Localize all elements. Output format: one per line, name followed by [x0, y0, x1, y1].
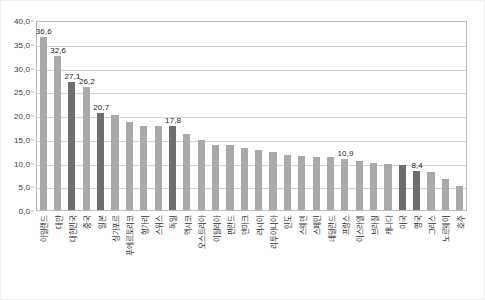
x-tick-label-slot: 대만: [50, 213, 64, 299]
bar-chart: 40,035,030,025,020,015,010,05,00,0 36,63…: [0, 0, 485, 300]
y-tick-label: 0,0: [19, 207, 30, 216]
x-tick-label: 일본: [95, 215, 106, 229]
bar[interactable]: [399, 165, 406, 211]
x-tick-label-slot: 싱가포르: [108, 213, 122, 299]
bar[interactable]: [97, 113, 104, 211]
bar-slot[interactable]: 32,6: [54, 21, 61, 211]
y-tick-label: 30,0: [14, 64, 30, 73]
bar-slot[interactable]: [427, 21, 434, 211]
y-tick-label: 35,0: [14, 40, 30, 49]
bar-slot[interactable]: 26,2: [83, 21, 90, 211]
x-tick-label: 아일랜드: [38, 215, 49, 242]
x-tick-label-slot: 프랑스: [338, 213, 352, 299]
bar-slot[interactable]: 17,8: [169, 21, 176, 211]
bar[interactable]: [155, 126, 162, 211]
bar[interactable]: [341, 159, 348, 211]
x-tick-label: 싱가포르: [110, 215, 121, 242]
bar[interactable]: [169, 126, 176, 211]
x-tick-label-slot: 네덜란드: [323, 213, 337, 299]
bar-slot[interactable]: [313, 21, 320, 211]
bar[interactable]: [442, 179, 449, 211]
y-tick-mark: [31, 163, 34, 164]
bar-slot[interactable]: [442, 21, 449, 211]
bar-slot[interactable]: 27,1: [68, 21, 75, 211]
x-tick-label-slot: 영국: [410, 213, 424, 299]
y-tick-mark: [31, 116, 34, 117]
y-tick-mark: [31, 44, 34, 45]
bar[interactable]: [456, 186, 463, 211]
x-tick-label-slot: 헝가리: [137, 213, 151, 299]
bar-slot[interactable]: [155, 21, 162, 211]
bar-slot[interactable]: [298, 21, 305, 211]
bar[interactable]: [284, 155, 291, 211]
bar-slot[interactable]: [327, 21, 334, 211]
bar[interactable]: [298, 156, 305, 211]
x-axis-labels: 아일랜드대만대한민국중국일본싱가포르푸에르토리코헝가리스위스독일멕시코오스트리아…: [36, 213, 467, 299]
y-tick-mark: [31, 92, 34, 93]
x-tick-label: 스웨덴: [296, 215, 307, 235]
x-tick-label: 이스라엘: [354, 215, 365, 242]
x-tick-label-slot: 러시아: [252, 213, 266, 299]
bar[interactable]: [226, 145, 233, 211]
x-tick-label-slot: 이스라엘: [352, 213, 366, 299]
x-tick-label-slot: 호주: [453, 213, 467, 299]
bar[interactable]: [269, 152, 276, 211]
bar[interactable]: [198, 140, 205, 211]
bar[interactable]: [384, 164, 391, 211]
bar[interactable]: [68, 82, 75, 211]
x-tick-label: 대한민국: [66, 215, 77, 242]
bar-slot[interactable]: [198, 21, 205, 211]
bar[interactable]: [40, 37, 47, 211]
bar[interactable]: [241, 148, 248, 211]
bar[interactable]: [255, 150, 262, 211]
x-tick-label-slot: 중국: [79, 213, 93, 299]
x-tick-label: 핀란드: [224, 215, 235, 235]
bar[interactable]: [356, 161, 363, 211]
bar-slot[interactable]: [356, 21, 363, 211]
bar-slot[interactable]: 20,7: [97, 21, 104, 211]
bar[interactable]: [427, 172, 434, 211]
bar-slot[interactable]: [212, 21, 219, 211]
bar-slot[interactable]: 8,4: [413, 21, 420, 211]
bar[interactable]: [370, 163, 377, 211]
bar-slot[interactable]: [284, 21, 291, 211]
bar-slot[interactable]: [226, 21, 233, 211]
x-tick-label-slot: 멕시코: [180, 213, 194, 299]
bar[interactable]: [111, 115, 118, 211]
bar-slot[interactable]: [126, 21, 133, 211]
bar-slot[interactable]: [241, 21, 248, 211]
bar-slot[interactable]: 36,6: [40, 21, 47, 211]
bar-slot[interactable]: [269, 21, 276, 211]
x-tick-label: 오스트리아: [196, 215, 207, 249]
bar[interactable]: [413, 171, 420, 211]
bar[interactable]: [54, 56, 61, 211]
bar[interactable]: [183, 134, 190, 211]
y-tick-label: 5,0: [19, 183, 30, 192]
y-tick-label: 40,0: [14, 17, 30, 26]
bar[interactable]: [126, 122, 133, 211]
bar-slot[interactable]: [399, 21, 406, 211]
bar-slot[interactable]: [370, 21, 377, 211]
bar[interactable]: [327, 157, 334, 211]
bar[interactable]: [83, 87, 90, 211]
bar[interactable]: [313, 157, 320, 211]
x-tick-label-slot: 오스트리아: [194, 213, 208, 299]
bar[interactable]: [140, 126, 147, 211]
x-tick-label-slot: 리투아니아: [266, 213, 280, 299]
bar-slot[interactable]: [456, 21, 463, 211]
y-tick-label: 10,0: [14, 159, 30, 168]
bar-slot[interactable]: [140, 21, 147, 211]
x-tick-label: 덴마크: [239, 215, 250, 235]
bar-slot[interactable]: [384, 21, 391, 211]
y-tick-mark: [31, 139, 34, 140]
x-tick-label: 멕시코: [181, 215, 192, 235]
x-tick-label: 리투아니아: [268, 215, 279, 249]
bar[interactable]: [212, 145, 219, 211]
bar-slot[interactable]: [255, 21, 262, 211]
x-tick-label: 스위스: [153, 215, 164, 235]
x-tick-label-slot: 노르웨이: [438, 213, 452, 299]
bar-slot[interactable]: [111, 21, 118, 211]
bar-slot[interactable]: [183, 21, 190, 211]
bar-slot[interactable]: 10,9: [341, 21, 348, 211]
y-tick-mark: [31, 68, 34, 69]
